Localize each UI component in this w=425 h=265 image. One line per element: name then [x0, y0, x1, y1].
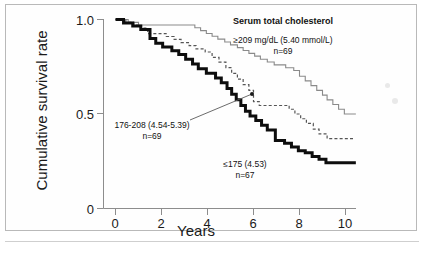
- annotation-high-cholesterol-group: ≥209 mg/dL (5.40 mmol/L) n=69: [233, 35, 332, 58]
- annotation-low-line1: ≤175 (4.53): [223, 159, 266, 170]
- x-tick-label-6: 6: [249, 216, 256, 231]
- annotation-high-line1: ≥209 mg/dL (5.40 mmol/L): [233, 35, 332, 46]
- x-tick-label-2: 2: [157, 216, 164, 231]
- annotation-mid-line1: 176-208 (4.54-5.39): [114, 120, 189, 131]
- figure-container: Cumulative survival rate Years 1.0 0.5 0…: [0, 0, 425, 265]
- x-tick-label-4: 4: [203, 216, 210, 231]
- x-tick-label-8: 8: [295, 216, 302, 231]
- y-tick-label-0point5: 0.5: [76, 107, 94, 122]
- x-tick-label-0: 0: [111, 216, 118, 231]
- annotation-low-line2: n=67: [223, 170, 266, 181]
- mid-group-leader-dot: [250, 92, 254, 96]
- y-axis-label: Cumulative survival rate: [33, 26, 50, 196]
- annotation-high-line2: n=69: [233, 46, 332, 57]
- annotation-mid-line2: n=69: [114, 131, 189, 142]
- annotation-low-cholesterol-group: ≤175 (4.53) n=67: [223, 159, 266, 182]
- annotation-mid-cholesterol-group: 176-208 (4.54-5.39) n=69: [114, 120, 189, 143]
- legend-title: Serum total cholesterol: [233, 15, 333, 27]
- x-tick-label-10: 10: [338, 216, 352, 231]
- mid-group-leader-line: [190, 94, 252, 120]
- y-tick-label-1: 1.0: [76, 13, 94, 28]
- y-tick-label-0: 0: [87, 202, 94, 217]
